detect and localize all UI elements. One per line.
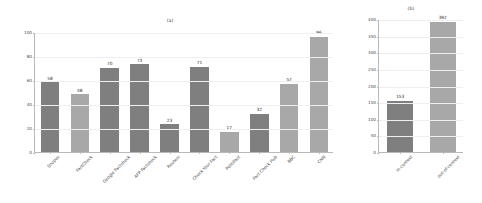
figure-root: (a) 58Snopes48FactCheck70Google Factchec… — [0, 0, 482, 203]
bar[interactable] — [250, 114, 269, 152]
x-axis-category-label: Google Factcheck — [102, 155, 131, 184]
bar-slot: 71Check Your Fact — [185, 33, 215, 152]
x-axis-category-label: Fact Check Hub — [252, 155, 278, 181]
panel-a-title: (a) — [0, 18, 340, 23]
y-axis-tick-label: 0 — [373, 151, 379, 155]
bar-value-label: 23 — [160, 119, 179, 123]
bar-slot: 58Snopes — [35, 33, 65, 152]
y-axis-tick-label: 400 — [368, 18, 379, 22]
bar-value-label: 73 — [130, 59, 149, 63]
bar-slot: 96CNN — [304, 33, 334, 152]
bar-group-a: 58Snopes48FactCheck70Google Factcheck73A… — [35, 33, 333, 152]
gridline — [379, 53, 463, 54]
x-axis-category-label: AFP Factcheck — [133, 155, 157, 179]
gridline — [379, 20, 463, 21]
bar[interactable] — [130, 64, 149, 152]
x-axis-tick-mark — [50, 152, 51, 154]
x-axis-tick-mark — [199, 152, 200, 154]
x-axis-category-label: BBC — [287, 155, 296, 164]
chart-panel-a: (a) 58Snopes48FactCheck70Google Factchec… — [0, 0, 340, 203]
y-axis-tick-label: 100 — [24, 31, 35, 35]
gridline — [35, 105, 333, 106]
y-axis-tick-label: 60 — [27, 79, 35, 83]
x-axis-tick-mark — [110, 152, 111, 154]
x-axis-category-label: in-context — [396, 155, 414, 173]
x-axis-tick-mark — [140, 152, 141, 154]
bar-slot: 73AFP Factcheck — [125, 33, 155, 152]
bar[interactable] — [71, 94, 90, 152]
gridline — [379, 103, 463, 104]
gridline — [379, 120, 463, 121]
x-axis-category-label: CNN — [317, 155, 326, 164]
x-axis-category-label: FactCheck — [75, 155, 93, 173]
gridline — [35, 81, 333, 82]
x-axis-tick-mark — [289, 152, 290, 154]
x-axis-category-label: Check Your Fact — [193, 155, 219, 181]
y-axis-tick-label: 20 — [27, 127, 35, 131]
y-axis-tick-label: 0 — [29, 151, 35, 155]
chart-panel-b: (b) 153in-context392out-of-context 05010… — [340, 0, 482, 203]
x-axis-category-label: out-of-context — [437, 155, 461, 179]
bar-value-label: 32 — [250, 108, 269, 112]
bar[interactable] — [387, 101, 413, 152]
y-axis-tick-label: 50 — [371, 134, 379, 138]
bar-slot: 32Fact Check Hub — [244, 33, 274, 152]
bar[interactable] — [41, 82, 60, 152]
bar-value-label: 153 — [387, 95, 413, 99]
y-axis-tick-label: 350 — [368, 35, 379, 39]
bar-value-label: 71 — [190, 61, 209, 65]
y-axis-tick-label: 100 — [368, 118, 379, 122]
x-axis-category-label: Snopes — [47, 155, 61, 169]
gridline — [35, 33, 333, 34]
plot-area-a: 58Snopes48FactCheck70Google Factcheck73A… — [34, 33, 333, 153]
x-axis-tick-mark — [80, 152, 81, 154]
gridline — [35, 57, 333, 58]
bar-value-label: 70 — [100, 62, 119, 66]
gridline — [379, 37, 463, 38]
x-axis-tick-mark — [319, 152, 320, 154]
panel-b-title: (b) — [340, 6, 482, 11]
x-axis-tick-mark — [443, 152, 444, 154]
bar[interactable] — [310, 37, 329, 152]
y-axis-tick-label: 150 — [368, 101, 379, 105]
x-axis-tick-mark — [170, 152, 171, 154]
x-axis-tick-mark — [400, 152, 401, 154]
bar[interactable] — [190, 67, 209, 152]
bar-slot: 23Reuters — [155, 33, 185, 152]
y-axis-tick-label: 80 — [27, 55, 35, 59]
bar[interactable] — [220, 132, 239, 152]
y-axis-tick-label: 300 — [368, 51, 379, 55]
bar-slot: 57BBC — [274, 33, 304, 152]
x-axis-category-label: Reuters — [166, 155, 180, 169]
bar[interactable] — [280, 84, 299, 152]
y-axis-tick-label: 200 — [368, 84, 379, 88]
x-axis-tick-mark — [229, 152, 230, 154]
gridline — [379, 136, 463, 137]
bar-slot: 17PolitiFact — [214, 33, 244, 152]
gridline — [379, 70, 463, 71]
bar-slot: 48FactCheck — [65, 33, 95, 152]
bar-value-label: 48 — [71, 89, 90, 93]
bar-slot: 70Google Factcheck — [95, 33, 125, 152]
x-axis-category-label: PolitiFact — [225, 155, 241, 171]
y-axis-tick-label: 250 — [368, 68, 379, 72]
x-axis-tick-mark — [259, 152, 260, 154]
gridline — [379, 87, 463, 88]
y-axis-tick-label: 40 — [27, 103, 35, 107]
gridline — [35, 129, 333, 130]
plot-area-b: 153in-context392out-of-context 050100150… — [378, 20, 463, 153]
